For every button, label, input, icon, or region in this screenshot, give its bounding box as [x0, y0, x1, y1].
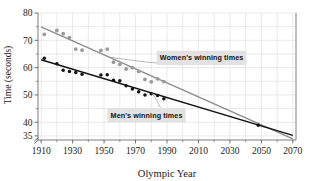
data-point	[61, 32, 65, 36]
data-point	[43, 57, 47, 61]
data-point	[131, 87, 135, 91]
data-point	[118, 62, 122, 66]
x-tick-label: 2070	[283, 146, 302, 156]
x-tick-label: 1910	[32, 146, 51, 156]
data-point	[42, 32, 46, 36]
x-tick-label: 2030	[220, 146, 239, 156]
x-tick-label: 1950	[95, 146, 114, 156]
data-point	[124, 84, 128, 88]
data-point	[99, 73, 103, 77]
data-point	[80, 72, 84, 76]
data-point	[105, 47, 109, 51]
data-point	[162, 97, 166, 101]
data-point	[124, 67, 128, 71]
data-point	[156, 77, 160, 81]
data-point	[55, 29, 59, 33]
y-tick-label: 60	[23, 63, 33, 73]
data-point	[137, 70, 141, 74]
data-point	[74, 71, 78, 75]
y-tick-label: 35	[23, 131, 33, 141]
x-tick-label: 2050	[252, 146, 271, 156]
y-tick-label: 70	[23, 36, 33, 46]
data-point	[68, 70, 72, 74]
data-point	[68, 36, 72, 40]
olympic-winning-times-chart: 354050607080 191019301950197019902010203…	[0, 0, 309, 181]
data-point	[74, 47, 78, 51]
scatter-plot-figure: 354050607080 191019301950197019902010203…	[0, 0, 309, 181]
data-point	[61, 69, 65, 73]
x-axis-title: Olympic Year	[138, 168, 197, 179]
y-tick-label: 80	[23, 8, 33, 18]
x-axis-tick-labels: 191019301950197019902010203020502070	[32, 146, 303, 156]
y-tick-label: 40	[23, 118, 33, 128]
x-tick-label: 1930	[63, 146, 82, 156]
data-point	[149, 80, 153, 84]
data-point	[156, 94, 160, 98]
data-point	[137, 90, 141, 94]
y-axis-title: Time (seconds)	[3, 46, 14, 105]
data-point	[80, 48, 84, 52]
annotation-label: Women's winning times	[160, 53, 244, 62]
data-point	[130, 66, 134, 70]
data-point	[105, 73, 109, 77]
data-point	[55, 62, 59, 66]
x-tick-label: 1970	[126, 146, 145, 156]
annotation-label: Men's winning times	[111, 111, 183, 120]
data-point	[112, 60, 116, 64]
x-tick-label: 2010	[189, 146, 208, 156]
data-point	[143, 77, 147, 81]
y-tick-label: 50	[23, 90, 33, 100]
data-point	[118, 79, 122, 83]
data-point	[162, 80, 166, 84]
data-point	[112, 78, 116, 82]
data-point	[143, 93, 147, 97]
data-point	[99, 49, 103, 53]
x-tick-label: 1990	[158, 146, 177, 156]
data-point	[256, 124, 260, 128]
